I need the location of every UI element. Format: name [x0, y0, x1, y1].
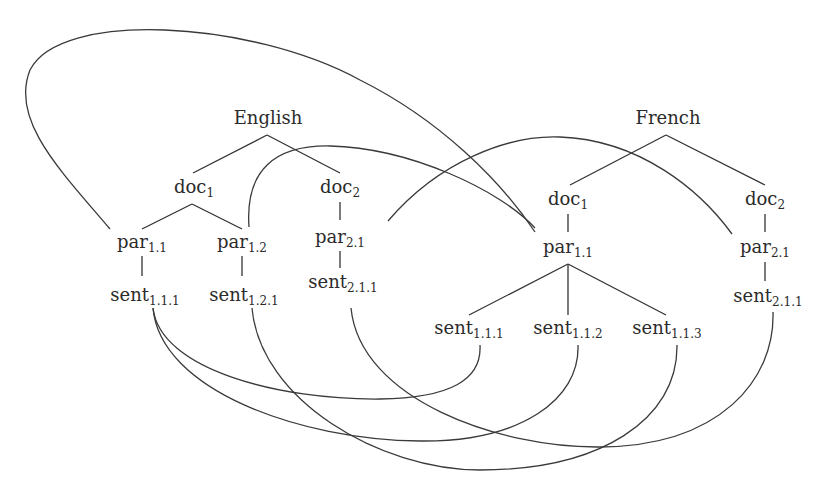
node-base-label: English: [234, 107, 303, 128]
node-en-sent121: sent1.2.1: [209, 284, 278, 308]
alignment-link-en-par21-to-fr-par21: [388, 137, 732, 234]
node-subscript: 2.1: [346, 236, 365, 250]
alignment-link-en-par11-to-fr-par11: [25, 30, 535, 232]
tree-edge-en-root-doc2: [267, 135, 340, 173]
node-base-label: sent: [308, 271, 347, 292]
node-subscript: 1.1.1: [473, 327, 504, 341]
node-subscript: 1.2: [248, 241, 267, 255]
node-labels: Englishdoc1doc2par1.1par1.2par2.1sent1.1…: [110, 107, 802, 341]
node-subscript: 1.1.1: [149, 294, 180, 308]
tree-edge-fr-root-doc2: [666, 135, 765, 185]
node-subscript: 2.1.1: [772, 295, 803, 309]
node-subscript: 1: [206, 186, 214, 200]
node-en-par12: par1.2: [217, 231, 267, 255]
node-subscript: 1.1.2: [572, 327, 603, 341]
node-fr-doc2: doc2: [745, 188, 785, 212]
alignment-diagram: Englishdoc1doc2par1.1par1.2par2.1sent1.1…: [0, 0, 826, 496]
node-base-label: sent: [632, 317, 671, 338]
node-en-par21: par2.1: [315, 226, 365, 250]
node-en-sent111: sent1.1.1: [110, 284, 179, 308]
alignment-link-en-sent111-to-fr-sent112: [153, 308, 578, 441]
node-subscript: 1.1: [148, 241, 167, 255]
node-base-label: doc: [174, 176, 206, 197]
tree-edge-fr-par11-sent111: [469, 264, 568, 315]
node-base-label: sent: [733, 285, 772, 306]
node-base-label: doc: [320, 176, 352, 197]
alignment-link-en-sent111-to-fr-sent111: [153, 308, 480, 399]
node-fr: French: [635, 107, 700, 128]
node-subscript: 1.1: [574, 246, 593, 260]
node-fr-sent211: sent2.1.1: [733, 285, 802, 309]
node-fr-sent112: sent1.1.2: [533, 317, 602, 341]
node-fr-sent113: sent1.1.3: [632, 317, 701, 341]
node-base-label: doc: [745, 188, 777, 209]
node-base-label: doc: [548, 188, 580, 209]
node-base-label: par: [543, 236, 574, 257]
node-fr-sent111: sent1.1.1: [434, 317, 503, 341]
node-base-label: par: [117, 231, 148, 252]
node-fr-doc1: doc1: [548, 188, 588, 212]
node-fr-par21: par2.1: [740, 236, 790, 260]
node-base-label: sent: [533, 317, 572, 338]
node-subscript: 2: [352, 186, 360, 200]
node-subscript: 1.1.3: [671, 327, 702, 341]
node-subscript: 2.1.1: [347, 281, 378, 295]
node-base-label: par: [217, 231, 248, 252]
node-fr-par11: par1.1: [543, 236, 593, 260]
tree-edge-en-root-doc1: [193, 135, 267, 173]
tree-edge-en-doc1-par11: [142, 204, 192, 229]
node-subscript: 1: [580, 198, 588, 212]
node-base-label: par: [740, 236, 771, 257]
node-base-label: French: [635, 107, 700, 128]
node-subscript: 2: [777, 198, 785, 212]
node-en-doc1: doc1: [174, 176, 214, 200]
node-en-par11: par1.1: [117, 231, 167, 255]
node-en: English: [234, 107, 303, 128]
node-subscript: 2.1: [771, 246, 790, 260]
node-base-label: sent: [110, 284, 149, 305]
tree-edge-fr-root-doc1: [570, 135, 666, 185]
node-en-doc2: doc2: [320, 176, 360, 200]
node-base-label: par: [315, 226, 346, 247]
node-en-sent211: sent2.1.1: [308, 271, 377, 295]
node-base-label: sent: [209, 284, 248, 305]
tree-edge-en-doc1-par12: [192, 204, 242, 229]
node-subscript: 1.2.1: [248, 294, 279, 308]
node-base-label: sent: [434, 317, 473, 338]
tree-edge-fr-par11-sent113: [568, 264, 666, 315]
